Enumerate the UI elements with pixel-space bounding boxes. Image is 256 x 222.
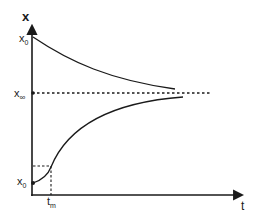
lower-start-label: x0	[17, 175, 27, 189]
lower-start-dot	[31, 181, 35, 185]
asymptote-label: x∞	[14, 87, 26, 102]
inflection-time-sub: m	[50, 202, 56, 209]
y-axis-label: x	[22, 9, 30, 24]
x-axis-label: t	[241, 199, 245, 213]
asymptote-dot	[31, 91, 35, 95]
inflection-time-label: tm	[47, 195, 56, 209]
decreasing-curve	[33, 37, 175, 89]
lower-start-sub: 0	[23, 182, 27, 189]
upper-start-label: x0	[19, 32, 29, 46]
asymptote-sub: ∞	[20, 93, 26, 102]
kinetics-diagram: x t x0 x∞ x0 tm	[0, 0, 256, 222]
increasing-curve	[33, 97, 183, 183]
upper-start-sub: 0	[25, 39, 29, 46]
